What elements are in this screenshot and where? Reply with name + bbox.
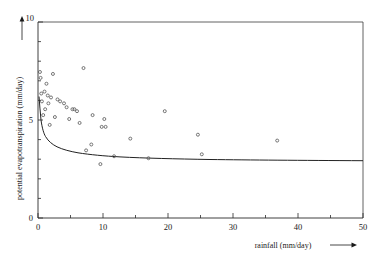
y-tick-label-10: 10 bbox=[26, 13, 35, 23]
y-axis-tick-labels: 0 5 10 bbox=[26, 13, 35, 223]
chart-canvas: 0 10 20 30 40 50 0 5 10 potential evapot… bbox=[0, 0, 386, 266]
data-point bbox=[200, 153, 203, 156]
data-point bbox=[103, 118, 106, 121]
data-point bbox=[45, 82, 48, 85]
x-tick-label-30: 30 bbox=[229, 222, 238, 232]
data-point bbox=[47, 102, 50, 105]
x-axis-tick-labels: 0 10 20 30 40 50 bbox=[36, 222, 367, 232]
x-tick-label-20: 20 bbox=[164, 222, 173, 232]
data-point bbox=[65, 106, 68, 109]
data-point bbox=[129, 137, 132, 140]
data-point bbox=[44, 108, 47, 111]
data-point bbox=[76, 110, 79, 113]
data-point bbox=[91, 114, 94, 117]
data-point bbox=[48, 123, 51, 126]
plot-frame bbox=[38, 22, 363, 218]
x-tick-label-10: 10 bbox=[99, 222, 108, 232]
y-tick-label-5: 5 bbox=[29, 115, 33, 125]
y-axis-title-group: potential evapotranspiration (mm/day) bbox=[15, 16, 24, 200]
data-point bbox=[42, 114, 45, 117]
data-point bbox=[39, 76, 42, 79]
data-point bbox=[99, 163, 102, 166]
data-point bbox=[46, 94, 49, 97]
data-point bbox=[40, 100, 43, 103]
x-tick-label-50: 50 bbox=[359, 222, 368, 232]
data-point bbox=[104, 125, 107, 128]
scatter-plot-figure: 0 10 20 30 40 50 0 5 10 potential evapot… bbox=[0, 0, 386, 266]
axis-lines bbox=[38, 22, 363, 218]
y-axis-title: potential evapotranspiration (mm/day) bbox=[15, 77, 24, 200]
data-point bbox=[163, 110, 166, 113]
data-point bbox=[100, 125, 103, 128]
y-axis-arrow-head-icon bbox=[20, 16, 25, 22]
x-axis-title-group: rainfall (mm/day) bbox=[255, 241, 357, 250]
data-point bbox=[82, 67, 85, 70]
data-point bbox=[38, 70, 41, 73]
x-tick-label-0: 0 bbox=[36, 222, 40, 232]
data-point bbox=[59, 100, 62, 103]
data-point bbox=[50, 96, 53, 99]
data-point bbox=[51, 72, 54, 75]
data-point bbox=[53, 116, 56, 119]
data-point bbox=[68, 118, 71, 121]
data-point bbox=[90, 143, 93, 146]
x-tick-label-40: 40 bbox=[294, 222, 303, 232]
data-point bbox=[85, 149, 88, 152]
data-point bbox=[40, 92, 43, 95]
y-tick-label-0: 0 bbox=[29, 213, 33, 223]
data-point bbox=[276, 139, 279, 142]
data-point bbox=[43, 90, 46, 93]
data-point bbox=[78, 121, 81, 124]
frame-top-right bbox=[38, 22, 363, 218]
x-axis-arrow-head-icon bbox=[352, 243, 358, 248]
data-point bbox=[63, 102, 66, 105]
x-axis-title: rainfall (mm/day) bbox=[255, 241, 312, 250]
scatter-points-layer bbox=[38, 67, 278, 166]
data-point bbox=[196, 133, 199, 136]
